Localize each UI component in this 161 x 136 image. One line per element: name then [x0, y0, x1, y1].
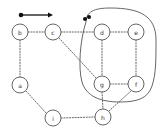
node-label-a: a [18, 82, 22, 89]
legend-arrow-dot [19, 13, 24, 18]
node-label-h: h [101, 114, 105, 121]
node-c[interactable]: c [45, 24, 61, 40]
arrow-legend [19, 12, 53, 17]
boundary-marker-1 [83, 17, 87, 21]
edge-g-h [102, 92, 103, 109]
edge-c-g [59, 38, 96, 78]
edge-i-h [61, 117, 95, 118]
node-e[interactable]: e [128, 24, 144, 40]
node-layer: bcdeagfhi [12, 24, 144, 126]
node-label-e: e [134, 29, 138, 36]
node-f[interactable]: f [128, 76, 144, 92]
node-label-b: b [18, 29, 22, 36]
node-label-g: g [100, 81, 104, 89]
enclosure-layer [80, 8, 156, 102]
edge-a-i [26, 91, 46, 113]
node-d[interactable]: d [94, 24, 110, 40]
group-boundary [80, 8, 156, 102]
node-i[interactable]: i [45, 110, 61, 126]
diagram-canvas: bcdeagfhi [0, 0, 161, 136]
node-g[interactable]: g [94, 76, 110, 92]
node-a[interactable]: a [12, 77, 28, 93]
node-label-d: d [100, 29, 104, 36]
graph-svg: bcdeagfhi [0, 0, 161, 136]
boundary-marker-2 [87, 15, 91, 19]
edge-h-f [109, 91, 131, 111]
node-b[interactable]: b [12, 24, 28, 40]
node-label-c: c [51, 29, 54, 36]
legend-arrowhead-icon [48, 12, 53, 17]
node-h[interactable]: h [95, 109, 111, 125]
edge-layer [20, 32, 136, 118]
